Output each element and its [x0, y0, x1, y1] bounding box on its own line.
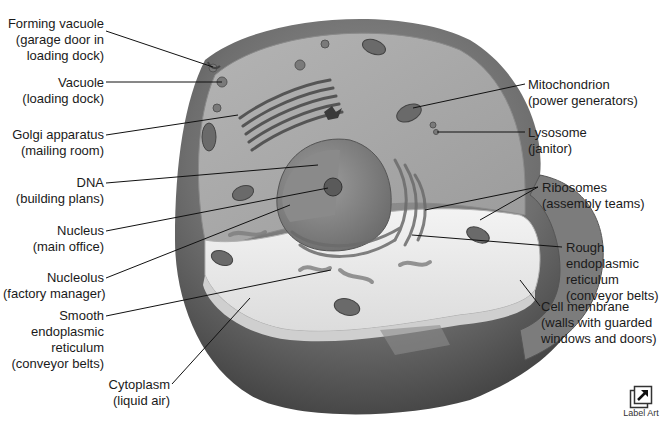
label-vacuole: Vacuole (loading dock) [3, 75, 104, 107]
label-art-text: Label Art [621, 408, 661, 418]
label-cytoplasm: Cytoplasm (liquid air) [60, 377, 170, 409]
label-smooth-er: Smooth endoplasmic reticulum (conveyor b… [3, 308, 104, 372]
label-nucleolus: Nucleolus (factory manager) [3, 270, 104, 302]
label-mitochondrion: Mitochondrion (power generators) [528, 77, 638, 109]
label-lysosome: Lysosome (janitor) [528, 125, 587, 157]
label-forming-vacuole: Forming vacuole (garage door in loading … [3, 16, 104, 64]
label-dna: DNA (building plans) [3, 175, 104, 207]
label-golgi-apparatus: Golgi apparatus (mailing room) [3, 127, 104, 159]
label-nucleus: Nucleus (main office) [3, 223, 104, 255]
label-ribosomes: Ribosomes (assembly teams) [542, 180, 645, 212]
label-rough-er: Rough endoplasmic reticulum (conveyor be… [566, 240, 658, 304]
nucleolus [324, 178, 342, 196]
label-cell-membrane: Cell membrane (walls with guarded window… [541, 299, 657, 347]
label-art-button[interactable]: Label Art [621, 385, 661, 418]
cell-diagram: Forming vacuole (garage door in loading … [0, 0, 663, 424]
external-arrow-icon [629, 385, 653, 409]
